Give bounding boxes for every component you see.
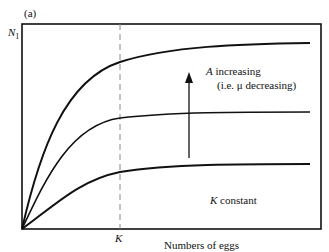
annotation-k-constant: K constant — [210, 195, 257, 206]
annotation-a-increasing: A increasing — [206, 66, 261, 77]
y-axis-label: N1 — [8, 27, 19, 41]
plot-frame — [22, 24, 321, 229]
k-tick-label: K — [115, 233, 122, 244]
arrow-up-icon — [185, 72, 193, 83]
annotation-mu-decreasing: (i.e. μ decreasing) — [217, 80, 296, 91]
curve-high-a — [22, 43, 310, 229]
panel-label: (a) — [24, 8, 36, 19]
plot-area — [0, 0, 329, 252]
curve-mid-a — [22, 112, 310, 229]
curve-low-a — [22, 164, 310, 229]
x-axis-label: Numbers of eggs — [164, 240, 239, 251]
